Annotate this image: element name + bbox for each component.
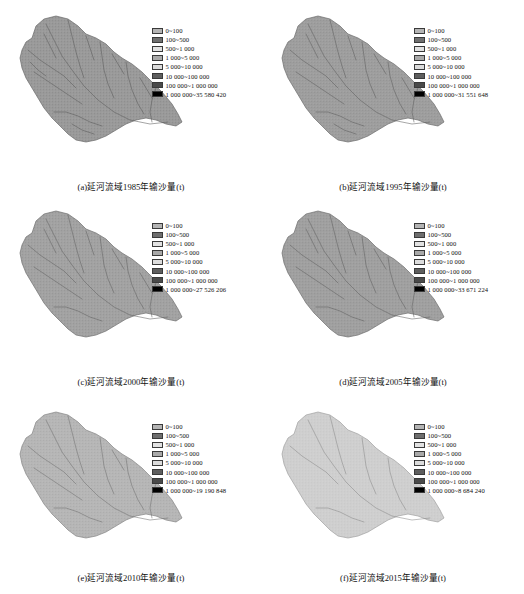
legend-label: 100 000~1 000 000	[428, 477, 480, 486]
legend-swatch-icon	[414, 277, 425, 283]
legend-swatch-icon	[414, 82, 425, 88]
legend-row: 10 000~100 000	[152, 467, 260, 476]
legend-swatch-icon	[414, 433, 425, 439]
legend-row: 1 000 000~19 190 848	[152, 486, 260, 495]
legend-row: 5 000~10 000	[414, 62, 522, 71]
legend-row: 100 000~1 000 000	[414, 276, 522, 285]
legend-row: 100~500	[152, 35, 260, 44]
legend-swatch-icon	[414, 55, 425, 61]
legend-label: 0~100	[428, 422, 445, 431]
legend-label: 1 000~5 000	[428, 53, 462, 62]
legend-row: 5 000~10 000	[152, 62, 260, 71]
legend-swatch-icon	[152, 28, 163, 34]
legend-swatch-icon	[414, 442, 425, 448]
map-panel-d: 0~100 100~500 500~1 000 1 000~5 000	[262, 195, 524, 390]
panel-caption-a: (a)延河流域1985年输沙量(t)	[0, 181, 262, 193]
legend-label-top-class: 1 000 000~19 190 848	[166, 486, 227, 495]
legend-row: 10 000~100 000	[414, 71, 522, 80]
legend-label: 500~1 000	[428, 239, 457, 248]
legend-label: 1 000~5 000	[166, 53, 200, 62]
legend-swatch-icon	[152, 55, 163, 61]
legend-label: 500~1 000	[428, 440, 457, 449]
legend-swatch-icon	[152, 478, 163, 484]
legend-label: 5 000~10 000	[428, 458, 465, 467]
legend-label-top-class: 1 000 000~33 671 224	[428, 285, 489, 294]
legend-swatch-icon	[152, 82, 163, 88]
legend-row: 1 000 000~35 580 420	[152, 90, 260, 99]
legend-row: 1 000 000~8 684 240	[414, 486, 522, 495]
legend-label: 5 000~10 000	[166, 257, 203, 266]
legend-swatch-icon	[152, 241, 163, 247]
legend-row: 0~100	[414, 422, 522, 431]
legend-label: 100~500	[428, 35, 452, 44]
legend-swatch-icon	[414, 91, 425, 97]
legend-swatch-icon	[152, 223, 163, 229]
panel-caption-f: (f)延河流域2015年输沙量(t)	[262, 572, 524, 584]
legend-swatch-icon	[152, 268, 163, 274]
legend-swatch-icon	[414, 424, 425, 430]
legend-row: 1 000 000~33 671 224	[414, 285, 522, 294]
legend-label: 1 000~5 000	[428, 449, 462, 458]
legend-label: 100~500	[428, 431, 452, 440]
legend-swatch-icon	[414, 487, 425, 493]
legend-swatch-icon	[152, 442, 163, 448]
legend-row: 500~1 000	[152, 440, 260, 449]
legend-e: 0~100 100~500 500~1 000 1 000~5 000	[152, 422, 260, 495]
legend-label-top-class: 1 000 000~8 684 240	[428, 486, 485, 495]
figure-sheet: 0~100 100~500 500~1 000 1 000~5 000	[0, 0, 524, 594]
legend-row: 0~100	[414, 26, 522, 35]
legend-row: 1 000 000~31 551 648	[414, 90, 522, 99]
legend-row: 10 000~100 000	[152, 71, 260, 80]
panel-body-d: 0~100 100~500 500~1 000 1 000~5 000	[262, 195, 524, 368]
panel-caption-d: (d)延河流域2005年输沙量(t)	[262, 376, 524, 388]
legend-label: 100 000~1 000 000	[166, 477, 218, 486]
legend-swatch-icon	[414, 241, 425, 247]
legend-label: 10 000~100 000	[166, 72, 210, 81]
legend-label: 1 000~5 000	[166, 248, 200, 257]
legend-row: 100 000~1 000 000	[414, 477, 522, 486]
legend-label: 10 000~100 000	[428, 267, 472, 276]
legend-row: 1 000~5 000	[152, 449, 260, 458]
legend-swatch-icon	[152, 259, 163, 265]
legend-row: 0~100	[152, 422, 260, 431]
legend-row: 1 000~5 000	[152, 53, 260, 62]
legend-swatch-icon	[414, 46, 425, 52]
legend-swatch-icon	[152, 232, 163, 238]
legend-swatch-icon	[152, 64, 163, 70]
legend-swatch-icon	[152, 460, 163, 466]
legend-row: 5 000~10 000	[414, 257, 522, 266]
legend-label: 100~500	[166, 431, 190, 440]
legend-b: 0~100 100~500 500~1 000 1 000~5 000	[414, 26, 522, 99]
legend-row: 5 000~10 000	[152, 458, 260, 467]
legend-label: 5 000~10 000	[428, 257, 465, 266]
legend-label: 500~1 000	[428, 44, 457, 53]
panel-caption-b: (b)延河流域1995年输沙量(t)	[262, 181, 524, 193]
legend-label: 0~100	[166, 422, 183, 431]
legend-f: 0~100 100~500 500~1 000 1 000~5 000	[414, 422, 522, 495]
legend-a: 0~100 100~500 500~1 000 1 000~5 000	[152, 26, 260, 99]
legend-label: 0~100	[428, 221, 445, 230]
panel-caption-c: (c)延河流域2000年输沙量(t)	[0, 376, 262, 388]
legend-label: 10 000~100 000	[166, 267, 210, 276]
legend-row: 500~1 000	[414, 44, 522, 53]
legend-swatch-icon	[414, 469, 425, 475]
legend-label-top-class: 1 000 000~35 580 420	[166, 90, 227, 99]
legend-swatch-icon	[414, 259, 425, 265]
legend-swatch-icon	[152, 250, 163, 256]
legend-swatch-icon	[414, 250, 425, 256]
legend-swatch-icon	[414, 223, 425, 229]
legend-row: 1 000~5 000	[414, 53, 522, 62]
legend-swatch-icon	[152, 424, 163, 430]
panel-caption-e: (e)延河流域2010年输沙量(t)	[0, 572, 262, 584]
map-panel-b: 0~100 100~500 500~1 000 1 000~5 000	[262, 0, 524, 195]
legend-label: 0~100	[166, 221, 183, 230]
panel-body-b: 0~100 100~500 500~1 000 1 000~5 000	[262, 0, 524, 173]
legend-swatch-icon	[152, 487, 163, 493]
legend-row: 100~500	[414, 431, 522, 440]
legend-row: 1 000 000~27 526 206	[152, 285, 260, 294]
legend-swatch-icon	[414, 37, 425, 43]
legend-label: 5 000~10 000	[428, 62, 465, 71]
legend-row: 100~500	[152, 230, 260, 239]
legend-label: 5 000~10 000	[166, 458, 203, 467]
legend-label: 500~1 000	[166, 44, 195, 53]
